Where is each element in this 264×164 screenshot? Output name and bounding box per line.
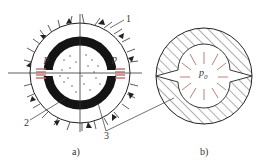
diagram-canvas: 1 2 3 p p a) p0 b) [0, 0, 264, 164]
label-p-left: p [43, 53, 49, 64]
label-2: 2 [24, 117, 29, 128]
caption-a: a) [72, 146, 80, 158]
caption-b: b) [200, 146, 208, 158]
figure-b: p0 b) [156, 28, 252, 158]
label-3: 3 [104, 130, 109, 141]
figure-a: 1 2 3 p p a) [8, 13, 174, 158]
label-1: 1 [126, 13, 131, 24]
label-p-right: p [111, 53, 117, 64]
